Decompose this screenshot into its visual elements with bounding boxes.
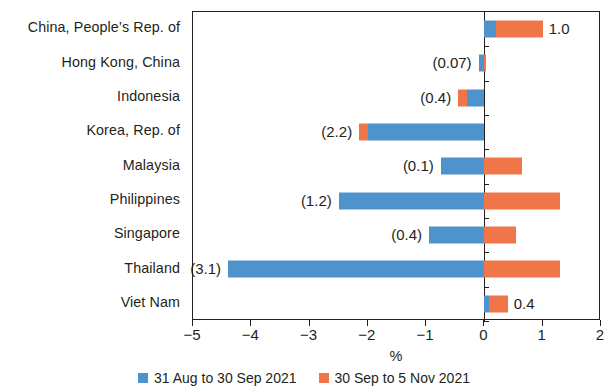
plot-area: 1.0(0.07)(0.4)(2.2)(0.1)(1.2)(0.4)(3.1)0…	[192, 11, 600, 320]
value-axis: −5−4−3−2−1012	[192, 320, 600, 328]
bond-yield-change-chart: China, People’s Rep. ofHong Kong, ChinaI…	[0, 0, 608, 391]
x-axis-tick-label: 0	[463, 326, 503, 343]
bar-row: (1.2)	[193, 184, 599, 218]
category-label: Korea, Rep. of	[0, 122, 180, 138]
bar-data-label: (2.2)	[321, 124, 352, 140]
bar-data-label: (3.1)	[190, 261, 221, 277]
category-label: Thailand	[0, 260, 180, 276]
bar-row: (0.4)	[193, 81, 599, 115]
bar-row: 0.4	[193, 287, 599, 321]
category-label: Singapore	[0, 225, 180, 241]
x-axis-tick-label: −1	[405, 326, 445, 343]
bar-segment-period-2	[359, 124, 368, 141]
bar-segment-period-1	[484, 21, 496, 38]
category-label: Hong Kong, China	[0, 54, 180, 70]
legend-swatch-icon	[319, 373, 329, 383]
bar-segment-period-2	[484, 158, 522, 175]
bar-segment-period-1	[368, 124, 485, 141]
bar-segment-period-2	[484, 227, 516, 244]
bar-data-label: (1.2)	[301, 193, 332, 209]
x-axis-tick-label: −3	[289, 326, 329, 343]
bar-segment-period-1	[228, 261, 484, 278]
bar-segment-period-2	[484, 261, 560, 278]
bar-row: (0.4)	[193, 218, 599, 252]
bar-segment-period-1	[441, 158, 485, 175]
category-axis-labels: China, People’s Rep. ofHong Kong, ChinaI…	[0, 10, 186, 310]
x-axis-tick-label: 2	[580, 326, 608, 343]
category-label: Viet Nam	[0, 294, 180, 310]
bar-segment-period-2	[489, 295, 508, 312]
x-axis-tick-label: −2	[347, 326, 387, 343]
category-label: Philippines	[0, 191, 180, 207]
bar-data-label: 1.0	[549, 21, 570, 37]
bar-data-label: (0.4)	[391, 227, 422, 243]
bar-segment-period-2	[458, 89, 467, 106]
bar-row: 1.0	[193, 12, 599, 46]
category-label: China, People’s Rep. of	[0, 19, 180, 35]
chart-legend: 31 Aug to 30 Sep 202130 Sep to 5 Nov 202…	[0, 370, 608, 386]
bar-data-label: 0.4	[514, 296, 535, 312]
bar-segment-period-2	[484, 55, 486, 72]
bar-row: (3.1)	[193, 252, 599, 286]
bar-row: (0.1)	[193, 149, 599, 183]
x-axis-tick-label: 1	[522, 326, 562, 343]
category-label: Malaysia	[0, 157, 180, 173]
legend-item[interactable]: 30 Sep to 5 Nov 2021	[319, 370, 470, 386]
bar-row: (2.2)	[193, 115, 599, 149]
axis-title-percent: %	[192, 348, 600, 364]
x-axis-tick-label: −5	[172, 326, 212, 343]
category-label: Indonesia	[0, 88, 180, 104]
bar-data-label: (0.4)	[420, 90, 451, 106]
bar-segment-period-1	[467, 89, 484, 106]
bar-data-label: (0.1)	[403, 158, 434, 174]
bar-segment-period-2	[484, 192, 560, 209]
legend-swatch-icon	[138, 373, 148, 383]
legend-item[interactable]: 31 Aug to 30 Sep 2021	[138, 370, 296, 386]
bar-segment-period-1	[429, 227, 484, 244]
bar-segment-period-1	[339, 192, 485, 209]
bar-segment-period-2	[496, 21, 543, 38]
legend-label: 30 Sep to 5 Nov 2021	[335, 370, 470, 386]
legend-label: 31 Aug to 30 Sep 2021	[154, 370, 296, 386]
bar-data-label: (0.07)	[432, 55, 471, 71]
bar-row: (0.07)	[193, 46, 599, 80]
x-axis-tick-label: −4	[230, 326, 270, 343]
